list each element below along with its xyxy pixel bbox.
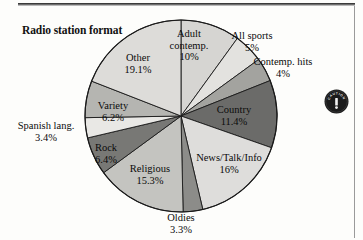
slice-label-rock: Rock 6.4% bbox=[85, 142, 127, 165]
slice-label-all-sports: All sports 5% bbox=[218, 30, 286, 53]
slice-label-adult-contemp: Adult contemp. 10% bbox=[163, 28, 215, 63]
slice-label-country: Country 11.4% bbox=[205, 104, 263, 127]
slice-label-religious: Religious 15.3% bbox=[120, 163, 180, 186]
slice-label-spanish-lang: Spanish lang. 3.4% bbox=[6, 120, 86, 143]
chart-page: Radio station format Other 19.1% Adult c… bbox=[0, 0, 363, 240]
slice-label-contemp-hits: Contemp. hits 4% bbox=[240, 56, 326, 79]
slice-label-variety: Variety 6.2% bbox=[89, 100, 137, 123]
slice-label-oldies: Oldies 3.3% bbox=[155, 212, 207, 235]
slice-label-other: Other 19.1% bbox=[107, 52, 169, 75]
slice-label-news-talk-info: News/Talk/Info 16% bbox=[186, 152, 272, 175]
caution-badge: CAUTION bbox=[324, 89, 349, 114]
